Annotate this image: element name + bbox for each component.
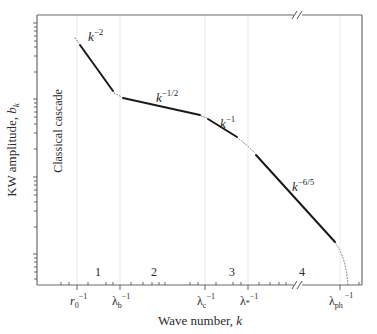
segment-k-minus-2 <box>80 45 113 91</box>
power-law-labels: k−2 k−1/2 k−1 k−6/5 <box>88 27 315 194</box>
region-2: 2 <box>151 265 157 279</box>
region-4: 4 <box>299 265 305 279</box>
y-axis-title: KW amplitude, bk <box>4 102 21 197</box>
segment-k-minus-6-5 <box>256 155 335 242</box>
kw-spectrum-chart: k−2 k−1/2 k−1 k−6/5 1 2 3 4 Classical ca… <box>0 0 377 334</box>
tick-label-lambda-star: λ*−1 <box>240 292 258 308</box>
region-3: 3 <box>229 265 235 279</box>
tick-label-lambda-b: λb−1 <box>112 292 130 310</box>
gridlines <box>77 15 340 285</box>
spectrum-curve <box>75 38 348 285</box>
label-k-minus-6-5: k−6/5 <box>292 177 315 194</box>
x-axis-ticks <box>61 282 359 290</box>
axis-break-icon <box>292 11 302 289</box>
dotted-cutoff <box>336 244 348 285</box>
region-1: 1 <box>95 265 101 279</box>
classical-cascade-label: Classical cascade <box>51 89 65 173</box>
plot-frame <box>37 15 362 285</box>
tick-label-r0: r0−1 <box>70 292 87 310</box>
label-k-minus-1: k−1 <box>220 114 235 131</box>
region-labels: 1 2 3 4 <box>95 265 305 279</box>
label-k-minus-2: k−2 <box>88 27 103 44</box>
x-tick-labels: r0−1 λb−1 λc−1 λ*−1 λph−1 <box>70 291 353 310</box>
tick-label-lambda-c: λc−1 <box>197 292 215 310</box>
label-k-minus-half: k−1/2 <box>156 88 178 105</box>
x-axis-title: Wave number, k <box>158 313 242 328</box>
dotted-transition-3 <box>239 139 255 153</box>
dotted-transition-2 <box>201 116 207 118</box>
dotted-transition-1 <box>114 93 122 97</box>
tick-label-lambda-ph: λph−1 <box>329 291 353 310</box>
